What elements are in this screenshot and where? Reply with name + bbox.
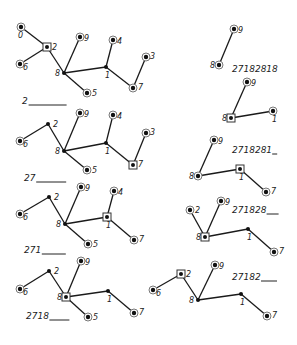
node-label: 7	[138, 83, 144, 92]
node-7: 7	[262, 187, 277, 196]
node-label: 8	[56, 220, 61, 229]
node-label: 1	[106, 221, 111, 230]
node-2: 2	[47, 193, 59, 202]
node-dot-icon	[47, 195, 51, 199]
node-6: 6	[16, 137, 28, 149]
node-dot-icon	[196, 298, 200, 302]
node-label: 6	[23, 288, 28, 297]
node-7: 7	[130, 308, 145, 317]
tree-graph-g1: 02689413752	[16, 23, 155, 106]
node-label: 3	[150, 52, 155, 61]
tree-graph-g7: 98172718281	[189, 136, 277, 196]
node-7: 7	[129, 83, 144, 92]
node-label: 5	[93, 313, 98, 322]
node-7: 7	[129, 160, 144, 169]
node-1: 1	[103, 213, 111, 230]
node-dot-icon	[111, 38, 115, 42]
node-dot-icon	[45, 45, 49, 49]
node-7: 7	[130, 235, 145, 244]
sequence-label: 27182818	[232, 64, 278, 74]
node-8: 8	[210, 61, 223, 70]
tree-graph-g8: 29817271828	[186, 197, 285, 256]
node-dot-icon	[131, 163, 135, 167]
node-dot-icon	[188, 208, 192, 212]
edge-8-5	[65, 224, 88, 244]
node-dot-icon	[19, 25, 23, 29]
node-dot-icon	[62, 149, 66, 153]
node-dot-icon	[272, 250, 276, 254]
node-label: 9	[85, 184, 90, 193]
node-8: 8	[57, 293, 70, 302]
node-2: 2	[46, 120, 58, 129]
node-6: 6	[149, 286, 161, 298]
node-dot-icon	[112, 189, 116, 193]
node-2: 2	[186, 206, 200, 215]
sequence-label: 271	[24, 245, 41, 255]
node-label: 2	[54, 267, 59, 276]
node-4: 4	[110, 187, 123, 197]
node-2: 2	[47, 267, 59, 276]
node-8: 8	[55, 147, 66, 156]
node-1: 1	[104, 65, 110, 80]
node-label: 8	[222, 114, 227, 123]
edge-8-1	[64, 143, 106, 151]
node-dot-icon	[212, 138, 216, 142]
node-7: 7	[270, 247, 285, 256]
node-label: 6	[23, 140, 28, 149]
sequence-label: 2718281	[232, 145, 272, 155]
node-dot-icon	[232, 27, 236, 31]
node-label: 6	[23, 63, 28, 72]
node-8: 8	[222, 114, 235, 123]
node-1: 1	[106, 289, 112, 304]
edge-8-1	[198, 294, 241, 300]
node-dot-icon	[203, 235, 207, 239]
tree-graph-g6: 981	[222, 78, 277, 124]
node-8: 8	[189, 296, 200, 305]
node-dot-icon	[86, 315, 90, 319]
node-dot-icon	[131, 86, 135, 90]
node-dot-icon	[144, 131, 148, 135]
node-dot-icon	[18, 62, 22, 66]
node-1: 1	[236, 165, 244, 182]
edge-8-9	[219, 29, 234, 65]
node-6: 6	[16, 210, 28, 222]
node-label: 4	[117, 112, 122, 121]
node-label: 7	[139, 308, 145, 317]
sequence-label: 271828	[232, 205, 267, 215]
node-label: 9	[251, 79, 256, 88]
sequence-label: 2	[22, 96, 28, 106]
node-8: 8	[56, 220, 67, 229]
node-label: 9	[85, 258, 90, 267]
node-label: 2	[186, 270, 191, 279]
node-label: 4	[118, 188, 123, 197]
node-label: 2	[52, 43, 57, 52]
node-dot-icon	[217, 63, 221, 67]
node-dot-icon	[104, 65, 108, 69]
node-dot-icon	[213, 263, 217, 267]
node-label: 3	[150, 128, 155, 137]
node-0: 0	[17, 23, 25, 40]
node-1: 1	[269, 107, 277, 124]
node-label: 1	[247, 233, 252, 242]
node-dot-icon	[132, 311, 136, 315]
edge-8-1	[66, 291, 108, 297]
node-label: 8	[55, 69, 60, 78]
node-label: 0	[18, 31, 23, 40]
node-dot-icon	[219, 199, 223, 203]
node-dot-icon	[229, 116, 233, 120]
node-5: 5	[83, 166, 97, 175]
node-dot-icon	[151, 288, 155, 292]
node-label: 9	[218, 137, 223, 146]
node-label: 5	[93, 240, 98, 249]
edge-8-9	[65, 187, 81, 224]
edge-2-6	[20, 197, 49, 214]
node-dot-icon	[18, 139, 22, 143]
node-label: 8	[196, 233, 201, 242]
node-dot-icon	[264, 190, 268, 194]
edge-8-1	[64, 67, 106, 73]
node-5: 5	[83, 89, 97, 98]
edge-8-1	[231, 111, 273, 118]
node-3: 3	[142, 128, 155, 137]
node-label: 8	[210, 61, 215, 70]
node-label: 7	[272, 311, 278, 320]
